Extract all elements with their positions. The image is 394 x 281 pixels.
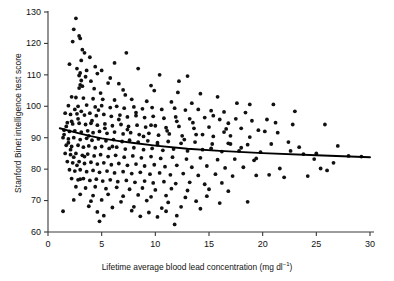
scatter-point <box>76 117 80 121</box>
x-tick-label: 20 <box>258 239 268 249</box>
scatter-point <box>83 51 87 55</box>
x-tick-label: 0 <box>45 239 50 249</box>
scatter-point <box>149 195 153 199</box>
scatter-point <box>105 169 109 173</box>
scatter-point <box>186 189 190 193</box>
scatter-point <box>115 185 119 189</box>
scatter-point <box>136 193 140 197</box>
scatter-point <box>138 214 142 218</box>
scatter-point <box>254 174 258 178</box>
scatter-point <box>142 135 146 139</box>
y-tick-label: 70 <box>31 195 41 205</box>
scatter-point <box>114 153 118 157</box>
scatter-point <box>256 128 260 132</box>
scatter-point <box>188 117 192 121</box>
scatter-point <box>163 165 167 169</box>
scatter-point <box>116 180 120 184</box>
scatter-point <box>165 129 169 133</box>
scatter-point <box>141 186 145 190</box>
scatter-point <box>218 201 222 205</box>
scatter-point <box>171 155 175 159</box>
scatter-point <box>168 173 172 177</box>
scatter-point <box>122 155 126 159</box>
scatter-point <box>77 121 81 125</box>
scatter-point <box>291 123 295 127</box>
scatter-point <box>102 161 106 165</box>
scatter-point <box>267 173 271 177</box>
scatter-point <box>175 163 179 167</box>
scatter-point <box>69 153 73 157</box>
scatter-point <box>312 157 316 161</box>
scatter-point <box>248 135 252 139</box>
scatter-plot-figure: 60708090100110120130051015202530 Stanfor… <box>0 0 394 281</box>
scatter-point <box>106 81 110 85</box>
scatter-point <box>139 156 143 160</box>
scatter-point <box>175 119 179 123</box>
scatter-point <box>76 143 80 147</box>
scatter-point <box>121 194 125 198</box>
scatter-point <box>132 146 136 150</box>
scatter-point <box>181 172 185 176</box>
scatter-point <box>177 79 181 83</box>
scatter-point <box>113 61 117 65</box>
scatter-point <box>79 109 83 113</box>
scatter-point <box>115 104 119 108</box>
scatter-point <box>185 157 189 161</box>
scatter-point <box>156 215 160 219</box>
scatter-point <box>134 162 138 166</box>
scatter-point <box>159 157 163 161</box>
scatter-point <box>190 101 194 105</box>
scatter-point <box>162 180 166 184</box>
scatter-point <box>85 103 89 107</box>
x-tick-label: 5 <box>99 239 104 249</box>
scatter-point <box>193 140 197 144</box>
scatter-point <box>132 105 136 109</box>
scatter-point <box>73 169 77 173</box>
scatter-point <box>119 123 123 127</box>
scatter-point <box>151 181 155 185</box>
scatter-point <box>179 141 183 145</box>
scatter-point <box>63 152 67 156</box>
scatter-point <box>113 130 117 134</box>
scatter-point <box>82 177 86 181</box>
scatter-point <box>78 138 82 142</box>
scatter-point <box>131 154 135 158</box>
scatter-point <box>157 133 161 137</box>
scatter-point <box>141 107 145 111</box>
scatter-point <box>126 128 130 132</box>
scatter-point <box>196 108 200 112</box>
scatter-point <box>102 214 106 218</box>
scatter-point <box>124 179 128 183</box>
scatter-point <box>205 194 209 198</box>
scatter-point <box>319 167 323 171</box>
scatter-point <box>226 121 230 125</box>
scatter-point <box>117 82 121 86</box>
scatter-point <box>65 121 69 125</box>
scatter-point <box>166 140 170 144</box>
scatter-point <box>82 96 86 100</box>
x-axis-title-exponent: −1 <box>283 261 290 267</box>
scatter-point <box>87 144 91 148</box>
scatter-point <box>70 119 74 123</box>
scatter-point <box>214 172 218 176</box>
scatter-point <box>183 196 187 200</box>
scatter-point <box>152 163 156 167</box>
scatter-point <box>152 89 156 93</box>
scatter-point <box>99 153 103 157</box>
scatter-point <box>117 162 121 166</box>
scatter-point <box>199 156 203 160</box>
scatter-point <box>129 131 133 135</box>
scatter-point <box>269 142 273 146</box>
scatter-point <box>130 172 134 176</box>
scatter-point <box>158 171 162 175</box>
y-tick-label: 120 <box>26 38 41 48</box>
scatter-point <box>263 130 267 134</box>
scatter-point <box>164 209 168 213</box>
scatter-point <box>76 104 80 108</box>
scatter-point <box>143 179 147 183</box>
scatter-point <box>179 205 183 209</box>
scatter-point <box>85 69 89 73</box>
scatter-point <box>254 157 258 161</box>
scatter-point <box>161 148 165 152</box>
y-axis-title: Stanford Binet intelligence test score <box>13 13 23 233</box>
